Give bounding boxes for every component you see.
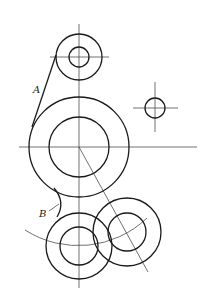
label-b-leader <box>49 204 59 211</box>
pitch-arc <box>25 218 147 246</box>
fillet-arc-b <box>54 188 61 217</box>
technical-drawing: A B <box>0 0 208 305</box>
label-a: A <box>32 84 40 95</box>
bottom-right-circle-inner <box>108 213 146 251</box>
diagonal-centerline <box>79 147 148 272</box>
bottom-right-circle-outer <box>93 198 161 266</box>
label-b: B <box>38 208 46 219</box>
